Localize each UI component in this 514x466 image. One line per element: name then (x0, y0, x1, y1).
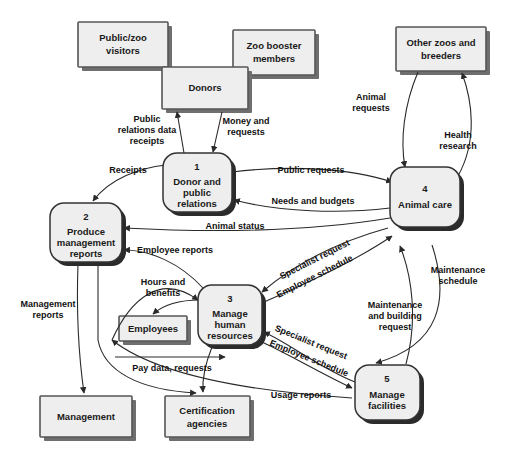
svg-text:receipts: receipts (130, 136, 165, 146)
process-label-line1: Manage (212, 308, 247, 319)
process-1-donor-and-public-relations[interactable]: 1 Donor and public relations (163, 153, 236, 216)
svg-text:research: research (439, 141, 477, 151)
svg-text:and building: and building (368, 311, 422, 321)
process-label-line3: relations (177, 198, 217, 209)
entity-label-line1: Management (57, 411, 116, 422)
flow-label-employee-reports: Employee reports (137, 245, 213, 255)
entity-certification-agencies[interactable]: Certification agencies (165, 396, 254, 441)
flow-label-receipts: Receipts (109, 165, 147, 175)
process-number: 1 (194, 161, 200, 172)
svg-text:requests: requests (352, 103, 390, 113)
process-2-produce-management-reports[interactable]: 2 Produce management reports (50, 203, 126, 266)
svg-text:Maintenance: Maintenance (431, 265, 486, 275)
flow-label-pay-data-requests: Pay data, requests (132, 363, 212, 373)
svg-text:Employee reports: Employee reports (137, 245, 213, 255)
data-flow-diagram: Public/zoo visitors Zoo booster members … (0, 0, 514, 466)
process-label-line2: public (183, 187, 211, 198)
process-number: 3 (227, 293, 232, 304)
process-label-line3: reports (70, 248, 103, 259)
svg-text:Usage reports: Usage reports (271, 390, 332, 400)
entity-other-zoos-and-breeders[interactable]: Other zoos and breeders (396, 27, 490, 75)
process-label-line1: Manage (369, 389, 404, 400)
process-label-line3: resources (207, 330, 252, 341)
flow-label-usage-reports: Usage reports (271, 390, 332, 400)
entity-employees[interactable]: Employees (119, 316, 191, 345)
svg-text:Public requests: Public requests (277, 165, 344, 175)
process-3-manage-human-resources[interactable]: 3 Manage human resources (198, 285, 266, 349)
process-label-line1: Produce (67, 226, 105, 237)
flow-label-health-research: Health research (439, 130, 477, 151)
process-number: 5 (384, 373, 390, 384)
entity-donors[interactable]: Donors (162, 67, 252, 113)
entity-label-line1: Certification (179, 405, 235, 416)
svg-text:Needs and budgets: Needs and budgets (271, 196, 354, 206)
entity-label-line1: Donors (188, 82, 221, 93)
svg-text:benefits: benefits (146, 288, 181, 298)
process-label-line1: Donor and (173, 176, 221, 187)
entity-label-line1: Employees (128, 323, 178, 334)
svg-text:relations data: relations data (118, 125, 178, 135)
flow-label-money-and-requests: Money and requests (222, 116, 269, 137)
svg-text:Money and: Money and (222, 116, 269, 126)
svg-text:Public: Public (133, 114, 160, 124)
process-4-animal-care[interactable]: 4 Animal care (390, 167, 464, 231)
entity-management[interactable]: Management (40, 396, 136, 441)
svg-text:Animal status: Animal status (205, 221, 264, 231)
entity-label-line2: members (253, 53, 295, 64)
svg-text:Pay data, requests: Pay data, requests (132, 363, 212, 373)
entity-label-line1: Public/zoo (99, 32, 147, 43)
svg-text:request: request (379, 322, 412, 332)
svg-text:Animal: Animal (356, 92, 386, 102)
entity-label-line1: Zoo booster (247, 40, 302, 51)
process-label-line2: facilities (368, 400, 406, 411)
process-label-line1: Animal care (398, 199, 452, 210)
svg-text:Health: Health (444, 130, 472, 140)
flow-label-hours-and-benefits: Hours and benefits (141, 277, 186, 298)
entity-label-line1: Other zoos and (406, 37, 475, 48)
svg-text:Maintenance: Maintenance (368, 300, 423, 310)
flow-label-needs-and-budgets: Needs and budgets (271, 196, 354, 206)
flow-label-public-requests: Public requests (277, 165, 344, 175)
process-5-manage-facilities[interactable]: 5 Manage facilities (355, 365, 424, 424)
svg-text:Receipts: Receipts (109, 165, 147, 175)
entity-label-line2: agencies (187, 418, 228, 429)
process-label-line2: management (57, 237, 116, 248)
flow-label-animal-status: Animal status (205, 221, 264, 231)
svg-text:Management: Management (20, 299, 75, 309)
svg-text:reports: reports (32, 310, 63, 320)
process-number: 4 (422, 183, 428, 194)
process-label-line2: human (214, 319, 245, 330)
svg-text:Hours and: Hours and (141, 277, 186, 287)
flow-label-maintenance-schedule: Maintenance schedule (431, 265, 486, 286)
entity-label-line2: visitors (106, 45, 140, 56)
flow-label-animal-requests: Animal requests (352, 92, 390, 113)
process-number: 2 (83, 211, 88, 222)
svg-text:schedule: schedule (438, 276, 477, 286)
svg-text:requests: requests (227, 127, 265, 137)
entity-label-line2: breeders (421, 50, 461, 61)
entity-public-zoo-visitors[interactable]: Public/zoo visitors (78, 22, 172, 71)
